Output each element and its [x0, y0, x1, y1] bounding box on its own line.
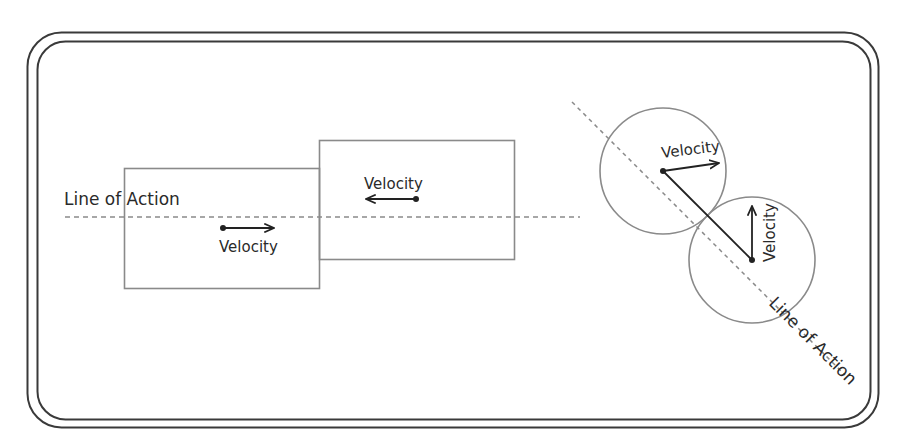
velocity-vector-block-b: [366, 196, 419, 202]
line-of-action-label-left: Line of Action: [64, 189, 180, 209]
outer-frame: [28, 33, 879, 428]
velocity-vector-block-a: [220, 225, 274, 231]
velocity-vector-ball-a: [660, 163, 719, 174]
line-of-action-label-right: Line of Action: [765, 293, 861, 389]
collision-diagram: Line of Action Velocity Velocity Velocit…: [0, 0, 917, 448]
velocity-label-ball-b: Velocity: [761, 203, 779, 262]
velocity-label-block-b: Velocity: [364, 175, 423, 193]
velocity-label-ball-a: Velocity: [660, 137, 721, 162]
velocity-vector-ball-b: [749, 206, 755, 263]
center-line: [663, 171, 752, 260]
right-panel: Velocity Velocity Line of Action: [572, 102, 861, 389]
velocity-label-block-a: Velocity: [219, 238, 278, 256]
left-panel: Line of Action Velocity Velocity: [64, 141, 580, 289]
